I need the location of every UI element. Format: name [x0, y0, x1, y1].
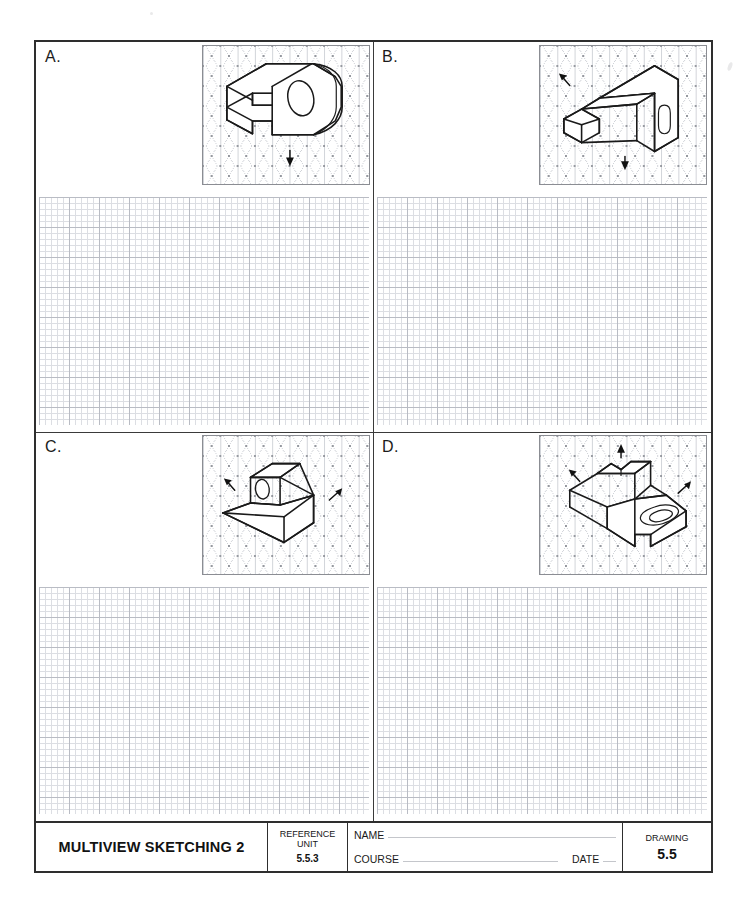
sketch-grid-c[interactable]	[39, 587, 369, 814]
isometric-object-d	[540, 436, 706, 574]
view-arrow-left-d	[569, 470, 580, 482]
isometric-panel-d	[539, 435, 707, 575]
worksheet-title: MULTIVIEW SKETCHING 2	[59, 839, 245, 855]
sketch-grid-a[interactable]	[39, 197, 369, 425]
isometric-panel-c	[202, 435, 370, 575]
worksheet-sheet: A.	[34, 40, 713, 873]
drawing-number-cell: DRAWING 5.5	[623, 823, 711, 871]
view-arrow-left-b	[559, 74, 570, 86]
paper-speck	[727, 62, 734, 72]
title-block-title-cell: MULTIVIEW SKETCHING 2	[36, 823, 268, 871]
reference-unit-label-line1: REFERENCE	[280, 829, 336, 839]
sketch-grid-d[interactable]	[377, 587, 707, 814]
view-arrow-front-b	[621, 156, 629, 170]
name-input[interactable]	[388, 837, 616, 838]
title-block: MULTIVIEW SKETCHING 2 REFERENCE UNIT 5.5…	[36, 821, 711, 871]
reference-unit-label-line2: UNIT	[297, 839, 318, 849]
date-input[interactable]	[603, 861, 616, 862]
student-fields-cell: NAME COURSE DATE	[348, 823, 623, 871]
quadrant-d-label: D.	[382, 438, 399, 456]
view-arrow-right-c	[329, 488, 342, 500]
drawing-label: DRAWING	[645, 833, 688, 843]
drawing-value: 5.5	[657, 846, 676, 862]
course-label: COURSE	[354, 853, 399, 865]
view-arrow-front-a	[286, 150, 294, 166]
reference-unit-cell: REFERENCE UNIT 5.5.3	[268, 823, 348, 871]
isometric-panel-a	[202, 45, 370, 185]
quadrant-c[interactable]: C.	[36, 432, 373, 821]
quadrant-a[interactable]: A.	[36, 42, 373, 432]
reference-unit-value: 5.5.3	[296, 853, 318, 864]
quadrant-a-label: A.	[45, 48, 61, 66]
quadrant-b-label: B.	[382, 48, 398, 66]
reference-unit-label: REFERENCE UNIT	[280, 830, 336, 849]
view-arrow-top-d	[617, 444, 625, 458]
quadrant-c-label: C.	[45, 438, 62, 456]
view-arrow-right-d	[678, 481, 691, 493]
paper-speck	[150, 12, 153, 15]
name-label: NAME	[354, 829, 384, 841]
quadrant-b[interactable]: B.	[373, 42, 711, 432]
quadrant-d[interactable]: D.	[373, 432, 711, 821]
isometric-object-c	[203, 436, 369, 574]
view-arrow-left-c	[224, 478, 235, 490]
work-area: A.	[36, 42, 711, 821]
name-field-row: NAME	[354, 823, 616, 847]
course-input[interactable]	[403, 861, 558, 862]
isometric-object-b	[540, 46, 706, 184]
date-label: DATE	[572, 853, 599, 865]
isometric-object-a	[203, 46, 369, 184]
course-field-row: COURSE DATE	[354, 847, 616, 871]
sketch-grid-b[interactable]	[377, 197, 707, 425]
isometric-panel-b	[539, 45, 707, 185]
